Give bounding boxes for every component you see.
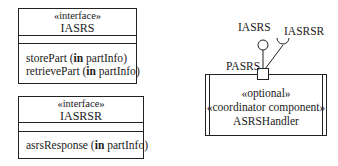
provided-interface-ball-icon	[258, 40, 268, 50]
required-interface-socket-icon	[277, 38, 289, 44]
port-label: PASRS	[226, 60, 260, 72]
required-interface-line	[265, 45, 283, 69]
required-interface-label: IASRSR	[284, 25, 324, 37]
provided-interface-label: IASRS	[238, 21, 271, 33]
